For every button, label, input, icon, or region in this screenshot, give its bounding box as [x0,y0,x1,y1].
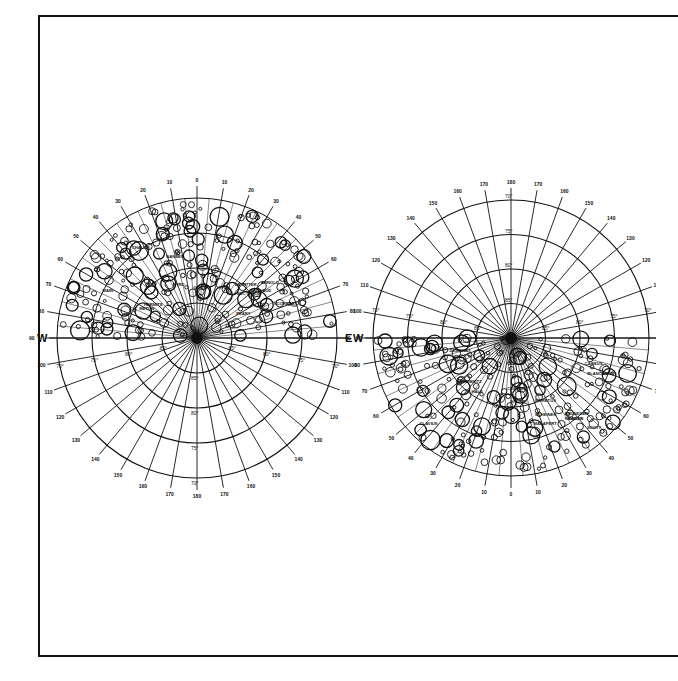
crater [227,235,242,250]
crater [185,286,188,289]
longitude-label: 40 [608,455,614,461]
longitude-label: 40 [296,214,302,220]
longitude-label: 130 [314,437,323,443]
longitude-label: 100 [353,308,362,314]
crater [585,382,589,386]
crater [103,311,112,320]
crater [114,234,118,238]
longitude-label: 40 [93,214,99,220]
longitude-label: 120 [642,257,651,263]
longitude-label: 140 [407,215,416,221]
crater [605,335,616,346]
crater [415,424,426,435]
crater [386,367,396,377]
crater [398,384,407,393]
crater [580,367,584,371]
crater-name: SHORT [510,399,525,404]
longitude-label: 120 [330,414,339,420]
longitude-label: 0 [510,491,513,497]
longitude-label: 30 [273,198,279,204]
crater [297,253,305,261]
crater [397,342,402,347]
crater [416,402,432,418]
crater [68,282,79,293]
crater [139,225,148,234]
crater [421,430,440,449]
crater [496,362,501,367]
crater [262,219,271,228]
crater [280,289,285,294]
west-longitude-label: 90 [29,335,35,341]
crater [606,383,611,388]
crater [247,255,252,260]
crater [253,251,257,255]
longitude-label: 70 [343,281,349,287]
crater [441,450,445,454]
crater [378,334,392,348]
grid-half: 1001101201301401501601701801701601501401… [353,179,656,338]
crater [249,223,255,229]
longitude-label: 60 [643,413,649,419]
crater-name: GIOJA [193,285,206,290]
crater [222,247,225,250]
crater-name: CHALLIS [132,245,150,250]
crater [103,299,106,302]
longitude-label: 160 [453,188,462,194]
crater [383,367,386,370]
longitude-label: 160 [247,483,256,489]
latitude-label: 75° [505,228,513,234]
crater-name: DE SITTER [235,282,257,287]
longitude-label: 20 [248,187,254,193]
crater [149,330,156,337]
crater [291,246,299,254]
longitude-label: 70 [655,388,656,394]
longitude-label: 30 [586,470,592,476]
crater [183,217,195,229]
longitude-label: 30 [115,198,121,204]
longitude-label: 140 [294,456,303,462]
crater [550,353,554,357]
crater-name: DEMONAX [449,348,471,353]
longitude-label: 180 [507,179,516,185]
crater [609,399,612,402]
crater [516,421,527,432]
crater [181,273,185,277]
crater [125,320,130,325]
crater [205,224,212,231]
crater [565,449,569,453]
crater [587,348,598,359]
longitude-label: 10 [222,179,228,185]
latitude-label: 80° [576,319,584,325]
crater-name: METON [139,306,154,311]
crater [437,394,447,404]
longitude-label: 110 [654,282,656,288]
longitude-label: 60 [331,256,337,262]
crater [80,268,93,281]
latitude-label: 80° [505,262,513,268]
crater [628,338,637,347]
crater [259,271,262,274]
longitude-label: 160 [560,188,569,194]
crater [330,322,333,325]
crater [573,331,589,347]
crater [101,323,113,335]
longitude-label: 170 [480,181,489,187]
longitude-label: 180 [193,493,202,499]
crater [509,367,514,372]
crater [71,321,90,340]
crater [450,398,464,412]
west-longitude-label: 90 [345,335,351,341]
longitude-label: 120 [372,257,381,263]
crater [564,403,571,410]
crater [544,456,547,459]
longitude-label: 130 [387,235,396,241]
crater [511,418,514,421]
crater-name: HERMITE [144,302,163,307]
crater-name: CURTIUS [507,386,526,391]
longitude-label: 20 [140,187,146,193]
crater [520,403,529,412]
longitude-label: 110 [341,389,349,395]
crater-name: PEARY [236,311,250,316]
latitude-label: 85° [228,345,236,351]
